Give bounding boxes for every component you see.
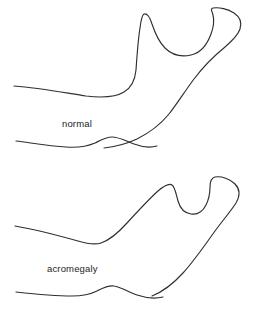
acromegaly-caption: acromegaly [47, 263, 98, 274]
mandible-comparison-figure: normal acromegaly [0, 0, 257, 309]
normal-caption: normal [62, 118, 92, 129]
mandible-diagram-svg: normal acromegaly [0, 0, 257, 309]
figure-background [0, 0, 257, 309]
